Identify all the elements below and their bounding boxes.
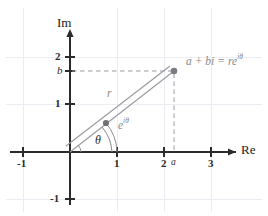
real-axis-arrow	[228, 148, 236, 155]
radius-vector-line	[70, 71, 174, 152]
unit-circle-point-label: eiθ	[118, 116, 129, 132]
theta-label: θ	[95, 134, 101, 146]
imaginary-axis-label: Im	[57, 16, 71, 29]
figure-canvas	[0, 0, 268, 216]
grid-lines	[6, 8, 262, 212]
real-axis-label: Re	[241, 143, 255, 156]
theta-angle-arc	[102, 127, 112, 152]
unit-circle-point-label-exponent: iθ	[123, 116, 129, 125]
complex-number-expression-right: re	[228, 55, 237, 67]
unit-circle-point-dot	[103, 120, 109, 126]
complex-number-expression-equals: =	[214, 55, 228, 67]
modulus-label: r	[107, 88, 111, 100]
y-tick-label-b: b	[57, 65, 63, 76]
x-tick-label--1: -1	[17, 158, 26, 169]
radius-vector-parallel-line	[66, 66, 170, 146]
complex-number-expression-exponent: iθ	[237, 52, 243, 61]
complex-number-expression-left: a + bi	[186, 55, 214, 67]
complex-plane-figure: Im Re -1 1 2 3 2 1 -1 b a r θ eiθ a + bi…	[0, 0, 268, 216]
radius-vector-group	[66, 66, 174, 152]
y-tick-label--1: -1	[50, 193, 59, 204]
complex-number-point-label: a + bi=reiθ	[186, 52, 243, 68]
imaginary-axis-arrow	[66, 29, 73, 37]
y-tick-label-2: 2	[55, 51, 61, 62]
x-tick-label-3: 3	[208, 158, 214, 169]
theta-inner-arc	[78, 145, 81, 152]
y-tick-label-1: 1	[55, 98, 61, 109]
x-tick-label-a: a	[171, 158, 176, 168]
x-tick-label-1: 1	[114, 158, 120, 169]
complex-number-point-dot	[171, 68, 178, 75]
x-tick-label-2: 2	[161, 158, 167, 169]
